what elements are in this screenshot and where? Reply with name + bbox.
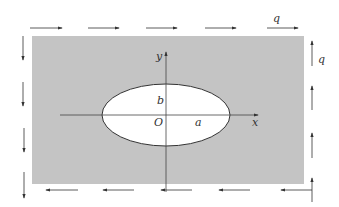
left-shear-arrows: [23, 36, 24, 198]
origin-label: O: [154, 116, 163, 129]
shear-top-label: q: [273, 12, 280, 25]
shear-plate-diagram: y x O a b q q: [0, 0, 339, 207]
shear-right-label: q: [318, 53, 325, 66]
semi-minor-label: b: [157, 94, 164, 107]
y-axis-label: y: [155, 50, 163, 63]
semi-major-label: a: [195, 116, 202, 129]
x-axis-label: x: [252, 116, 259, 129]
